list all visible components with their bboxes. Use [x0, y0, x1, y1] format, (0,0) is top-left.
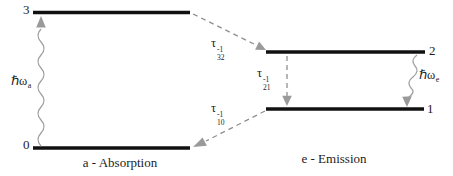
tau32-decay-arrow [193, 14, 266, 50]
absorption-photon-label: ℏωa [11, 75, 31, 90]
tau21-symbol: τ [257, 66, 262, 80]
tau21-label: τ-121 [257, 67, 271, 92]
tau21-subscript: 21 [263, 84, 271, 92]
hbar-omega-e-symbol: ℏω [419, 68, 435, 82]
hbar-omega-a-symbol: ℏω [11, 74, 27, 88]
tau10-label: τ-110 [211, 102, 225, 127]
tau21-decay-arrow [282, 56, 292, 106]
tau32-symbol: τ [211, 36, 216, 50]
energy-level-diagram-canvas [0, 0, 453, 176]
tau10-subscript: 10 [217, 119, 225, 127]
absorption-caption: a - Absorption [45, 155, 195, 171]
emission-caption: e - Emission [259, 151, 409, 167]
tau32-label: τ-132 [211, 37, 225, 62]
hbar-omega-e-subscript: e [436, 75, 440, 84]
tau21-arrowhead-icon [282, 96, 292, 106]
hbar-omega-a-subscript: a [28, 81, 32, 90]
tau32-arrowhead-icon [255, 42, 266, 50]
level-1-label: 1 [427, 102, 434, 115]
emission-wavy-arrow [402, 55, 417, 107]
tau10-decay-arrow [193, 111, 265, 147]
tau32-subscript: 32 [217, 54, 225, 62]
absorption-wavy-arrow [36, 16, 46, 146]
emission-photon-label: ℏωe [419, 69, 439, 84]
tau10-arrowhead-icon [193, 137, 207, 147]
emission-arrowhead-icon [402, 96, 412, 107]
level-0-label: 0 [23, 138, 30, 151]
level-3-label: 3 [23, 3, 30, 16]
level-2-label: 2 [429, 44, 436, 57]
tau10-symbol: τ [211, 101, 216, 115]
absorption-arrowhead-icon [36, 16, 46, 28]
four-level-system-diagram: 3 2 1 0 τ-132 τ-121 τ-110 ℏωa ℏωe a - Ab… [0, 0, 453, 176]
